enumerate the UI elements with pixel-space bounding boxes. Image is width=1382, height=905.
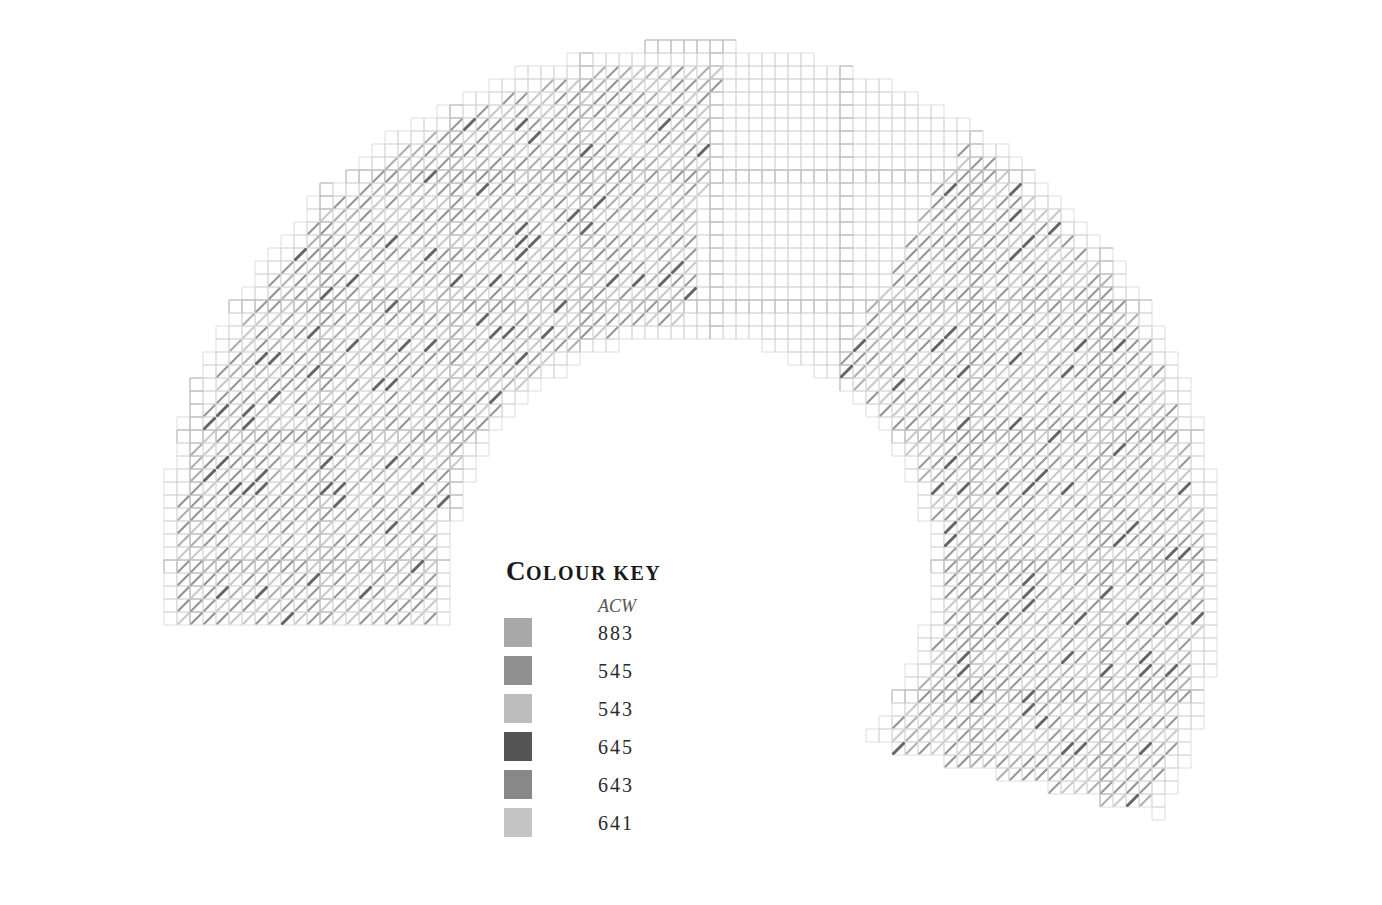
colour-key-title: Colour key [506,556,686,587]
colour-swatch [504,656,532,685]
colour-code: 545 [598,660,634,683]
colour-key-row: 543 [506,694,686,724]
colour-swatch [504,732,532,761]
colour-key-brand: ACW [598,596,636,617]
colour-swatch [504,694,532,723]
chart-grid [164,40,1217,820]
colour-code: 641 [598,812,634,835]
colour-key-row: 643 [506,770,686,800]
colour-key-row: 641 [506,808,686,838]
colour-key-row: 883 [506,618,686,648]
chart-stitches [179,68,1203,806]
colour-swatch [504,618,532,647]
colour-code: 543 [598,698,634,721]
colour-key-title-rest: olour key [526,562,661,584]
colour-code: 643 [598,774,634,797]
colour-swatch [504,808,532,837]
colour-code: 645 [598,736,634,759]
colour-code: 883 [598,622,634,645]
colour-key: Colour key ACW 883 545 543 645 643 641 [506,556,686,587]
stitch-chart-arch [0,0,1382,905]
colour-key-title-initial: C [506,556,526,586]
colour-key-row: 645 [506,732,686,762]
colour-key-row: 545 [506,656,686,686]
colour-swatch [504,770,532,799]
